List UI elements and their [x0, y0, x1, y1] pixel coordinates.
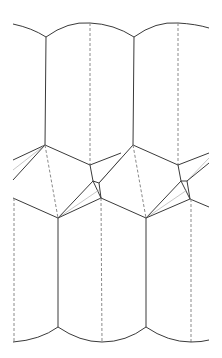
fan-line	[187, 158, 209, 181]
top-arc-right	[134, 23, 209, 37]
crease-unit-right	[101, 23, 209, 342]
fan-line	[146, 181, 181, 218]
twist-edge	[178, 165, 181, 181]
bottom-arc-right	[146, 327, 209, 342]
fan-line	[146, 199, 190, 218]
hex-edge	[13, 198, 58, 218]
diagonal-valley	[133, 145, 146, 218]
diagonal-valley	[45, 145, 58, 218]
twist-edge	[90, 165, 93, 181]
hex-edge	[101, 198, 146, 218]
fan-line	[187, 163, 209, 181]
fan-line	[58, 198, 101, 218]
hex-edge	[133, 145, 178, 165]
fan-line	[58, 190, 99, 218]
crease-unit-left	[13, 23, 146, 342]
bottom-arc	[13, 327, 146, 342]
top-arc-left	[13, 24, 46, 37]
fan-line	[146, 190, 187, 218]
fan-line	[58, 181, 93, 218]
crease-pattern-diagram	[0, 0, 222, 358]
hex-edge	[190, 199, 209, 207]
fan-line	[13, 145, 45, 180]
fan-line	[99, 145, 133, 183]
lower-valley-vertical	[101, 198, 102, 342]
upper-mountain-vertical	[133, 37, 134, 145]
hex-edge	[45, 145, 90, 165]
upper-mountain-vertical	[45, 37, 46, 145]
